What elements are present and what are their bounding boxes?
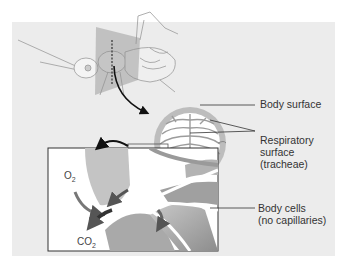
label-body-cells-1: Body cells: [258, 202, 306, 214]
label-carbon-dioxide: CO2: [77, 236, 96, 249]
label-respiratory-surface-1: Respiratory: [260, 134, 314, 146]
label-oxygen: O2: [64, 170, 76, 183]
label-respiratory-surface-3: (tracheae): [260, 158, 308, 170]
label-respiratory-surface-2: surface: [260, 146, 294, 158]
label-body-surface: Body surface: [260, 98, 321, 110]
inset-arrow-icon: [100, 141, 128, 146]
label-body-cells-2: (no capillaries): [258, 214, 326, 226]
inset-magnified-tissue: [48, 148, 218, 251]
